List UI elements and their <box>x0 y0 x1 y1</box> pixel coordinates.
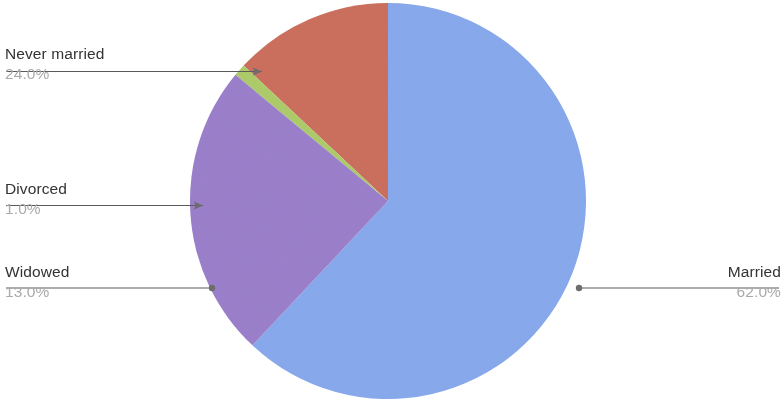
callout-label-divorced: Divorced <box>5 180 67 198</box>
callout-label-never-married: Never married <box>5 45 105 63</box>
callout-married: Married 62.0% <box>728 263 781 301</box>
callout-label-married: Married <box>728 263 781 281</box>
callout-value-divorced: 1.0% <box>5 200 67 218</box>
callout-value-never-married: 24.0% <box>5 65 105 83</box>
callout-widowed: Widowed 13.0% <box>5 263 69 301</box>
callout-never-married: Never married 24.0% <box>5 45 105 83</box>
leader-dot-widowed <box>209 285 215 291</box>
callout-label-widowed: Widowed <box>5 263 69 281</box>
callout-divorced: Divorced 1.0% <box>5 180 67 218</box>
pie-chart-canvas <box>0 0 783 406</box>
leader-dot-married <box>576 285 582 291</box>
pie-chart-figure: Never married 24.0% Divorced 1.0% Widowe… <box>0 0 783 406</box>
callout-value-widowed: 13.0% <box>5 283 69 301</box>
callout-value-married: 62.0% <box>728 283 781 301</box>
